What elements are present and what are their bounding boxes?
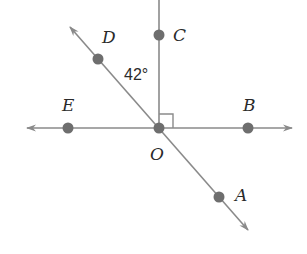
label-D: D [102, 29, 116, 46]
label-C: C [173, 27, 186, 44]
point-C [154, 30, 165, 41]
point-B [243, 123, 254, 134]
point-O [154, 123, 165, 134]
point-A [214, 192, 225, 203]
geometry-diagram: C D E B A O 42° [0, 0, 307, 254]
label-E: E [62, 97, 74, 114]
label-A: A [235, 187, 247, 204]
point-D [93, 54, 104, 65]
angle-measure-label: 42° [124, 67, 148, 83]
point-E [63, 123, 74, 134]
diagram-lines [0, 0, 307, 254]
label-B: B [243, 97, 256, 114]
label-O: O [150, 146, 164, 163]
